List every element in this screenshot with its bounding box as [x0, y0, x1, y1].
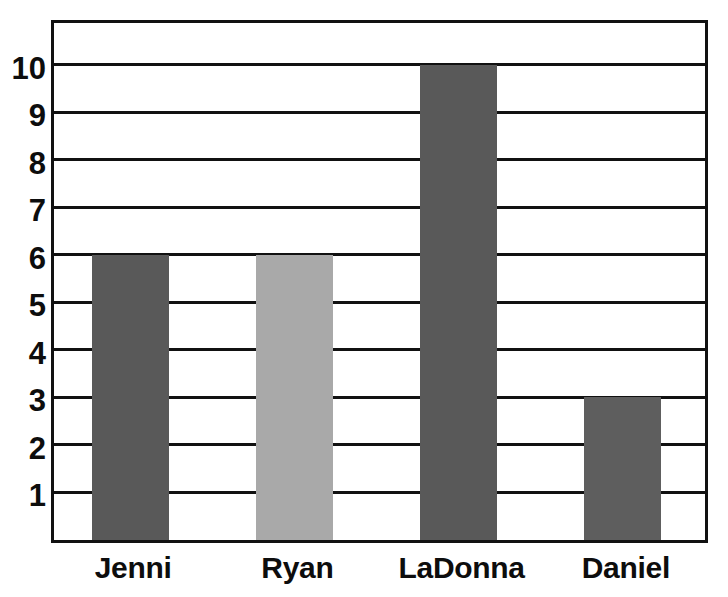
x-tick-label-daniel: Daniel [544, 548, 708, 588]
y-tick-label: 9 [0, 100, 46, 131]
y-tick-label: 3 [0, 385, 46, 416]
bar-jenni [92, 255, 169, 540]
y-tick-label: 10 [0, 52, 46, 83]
plot-area [51, 20, 708, 543]
y-tick-label: 2 [0, 432, 46, 463]
y-tick-label: 5 [0, 290, 46, 321]
bar-chart-figure: 12345678910 JenniRyanLaDonnaDaniel [0, 0, 728, 597]
x-tick-label-ladonna: LaDonna [380, 548, 544, 588]
y-tick-label: 1 [0, 480, 46, 511]
y-tick-label: 6 [0, 242, 46, 273]
y-tick-label: 8 [0, 147, 46, 178]
y-tick-label: 7 [0, 195, 46, 226]
bar-ladonna [420, 65, 497, 540]
bars-layer [54, 23, 705, 540]
x-tick-label-jenni: Jenni [51, 548, 215, 588]
bar-daniel [584, 397, 661, 540]
x-tick-label-ryan: Ryan [215, 548, 379, 588]
y-axis-tick-labels: 12345678910 [0, 20, 46, 543]
y-tick-label: 4 [0, 337, 46, 368]
x-axis-category-labels: JenniRyanLaDonnaDaniel [51, 548, 708, 592]
bar-ryan [256, 255, 333, 540]
